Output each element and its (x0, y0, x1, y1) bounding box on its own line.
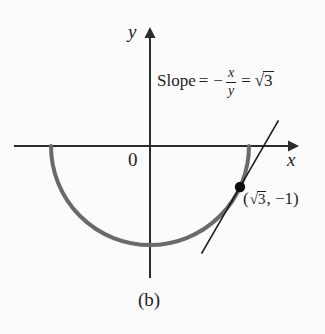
y-axis-label: y (128, 22, 136, 41)
point-radicand: 3 (257, 191, 267, 207)
point-separator: , (266, 189, 270, 208)
slope-equals-sign: = (196, 71, 212, 90)
point-close-paren: ) (293, 189, 299, 208)
origin-label: 0 (128, 150, 138, 169)
slope-annotation: Slope=−xy=√3 (157, 66, 274, 98)
figure-container: y x 0 Slope=−xy=√3 (√3, −1) (b) (0, 0, 325, 334)
figure-canvas (0, 0, 325, 334)
slope-minus-sign: − (211, 71, 224, 90)
slope-fraction-denominator: y (226, 84, 236, 99)
x-axis-label: x (287, 150, 295, 169)
slope-lead-text: Slope (157, 71, 196, 90)
point-y-value: −1 (275, 189, 293, 208)
slope-fraction: xy (226, 66, 236, 98)
figure-caption: (b) (138, 290, 160, 309)
slope-square-root: √3 (254, 71, 274, 89)
slope-equals-sign-2: = (238, 71, 254, 90)
point-coordinate-label: (√3, −1) (243, 190, 299, 207)
point-square-root: √3 (249, 190, 267, 207)
slope-fraction-numerator: x (226, 66, 236, 81)
slope-radicand: 3 (263, 71, 274, 89)
y-axis-arrowhead (145, 27, 156, 38)
